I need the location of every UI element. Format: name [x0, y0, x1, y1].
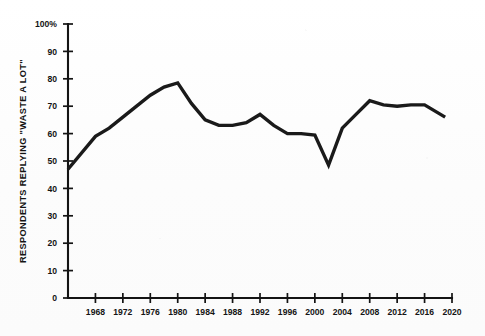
- x-tick-label: 1988: [223, 307, 242, 317]
- y-tick-label: 30: [47, 211, 57, 221]
- data-line: [68, 83, 445, 169]
- x-tick-label: 1968: [86, 307, 105, 317]
- x-tick-label: 2008: [360, 307, 379, 317]
- x-tick-label: 2020: [442, 307, 461, 317]
- x-tick-label: 2000: [305, 307, 324, 317]
- y-axis-title: RESPONDENTS REPLYING "WASTE A LOT": [18, 59, 28, 263]
- y-tick-label: 90: [47, 47, 57, 57]
- y-tick-label: 20: [47, 238, 57, 248]
- x-tick-label: 2004: [333, 307, 352, 317]
- x-tick-group: 1968197219761980198419881992199620002004…: [86, 293, 462, 317]
- x-tick-label: 1984: [196, 307, 215, 317]
- x-tick-label: 2016: [415, 307, 434, 317]
- line-chart: 0102030405060708090100% 1968197219761980…: [0, 0, 485, 336]
- x-tick-label: 1996: [278, 307, 297, 317]
- x-tick-label: 1976: [141, 307, 160, 317]
- y-tick-label: 40: [47, 184, 57, 194]
- y-tick-label: 70: [47, 101, 57, 111]
- y-tick-label: 0: [52, 293, 57, 303]
- y-tick-label: 10: [47, 266, 57, 276]
- x-tick-label: 1972: [113, 307, 132, 317]
- data-series-group: [68, 83, 445, 169]
- y-tick-label: 80: [47, 74, 57, 84]
- y-tick-label: 100%: [35, 19, 57, 29]
- y-tick-label: 60: [47, 129, 57, 139]
- x-tick-label: 1992: [250, 307, 269, 317]
- chart-page: 0102030405060708090100% 1968197219761980…: [0, 0, 485, 336]
- y-tick-label: 50: [47, 156, 57, 166]
- x-tick-label: 1980: [168, 307, 187, 317]
- x-tick-label: 2012: [388, 307, 407, 317]
